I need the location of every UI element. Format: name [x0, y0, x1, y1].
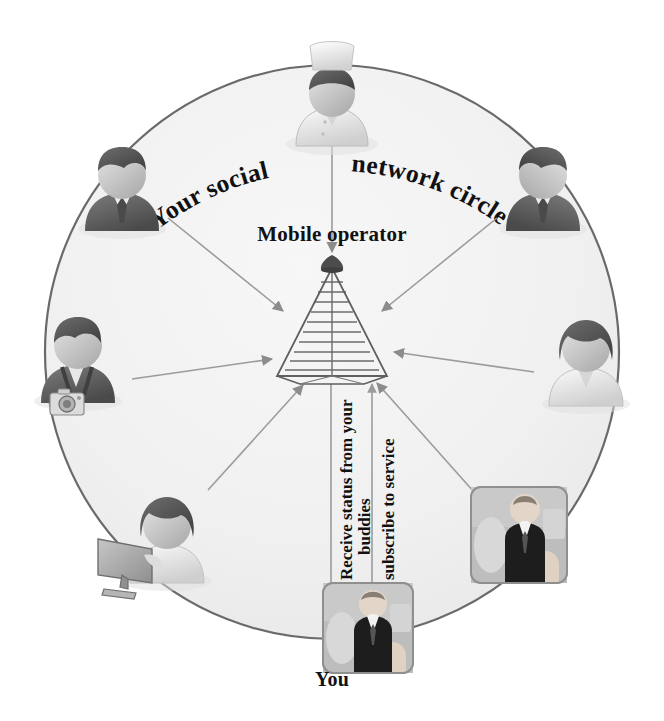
receive-status-label-line1: Receive status from your: [337, 399, 357, 580]
diagram-canvas: Your social network circle: [0, 0, 664, 721]
monitor-icon: [98, 539, 152, 599]
avatar-chef-button-2: [321, 132, 324, 135]
you-label: You: [0, 668, 664, 691]
photo-thumb-buddy[interactable]: [471, 487, 567, 583]
tower-antenna-base: [321, 267, 343, 273]
mobile-operator-label: Mobile operator: [0, 222, 664, 247]
photo-thumb-you[interactable]: [323, 583, 413, 673]
receive-status-label-line2: buddies: [355, 498, 375, 555]
camera-icon: [50, 389, 84, 415]
avatar-chef-hat: [310, 42, 354, 71]
social-network-circle-diagram: Your social network circle: [0, 0, 664, 721]
avatar-chef-button-1: [323, 120, 326, 123]
photo-thumb-you-content: [323, 583, 413, 673]
subscribe-to-service-label: subscribe to service: [379, 438, 399, 580]
photo-thumb-buddy-content: [471, 487, 567, 583]
